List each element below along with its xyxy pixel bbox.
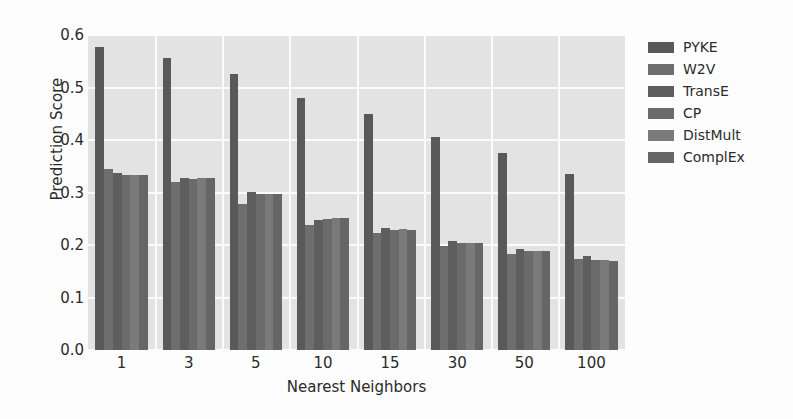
bar[interactable] xyxy=(600,260,609,350)
bar[interactable] xyxy=(139,175,148,350)
bar[interactable] xyxy=(104,169,113,350)
legend-swatch-icon xyxy=(648,130,674,141)
grid-line-vertical xyxy=(424,35,426,350)
legend-swatch-icon xyxy=(648,42,674,53)
y-tick-label: 0.0 xyxy=(42,341,84,359)
bar[interactable] xyxy=(273,194,282,350)
bar[interactable] xyxy=(591,260,600,350)
bar[interactable] xyxy=(180,178,189,350)
bar[interactable] xyxy=(256,194,265,350)
bar[interactable] xyxy=(498,153,507,350)
bar[interactable] xyxy=(265,194,274,350)
bar[interactable] xyxy=(189,179,198,350)
legend-label: CP xyxy=(683,105,701,121)
legend-swatch-icon xyxy=(648,152,674,163)
bar[interactable] xyxy=(507,254,516,350)
x-tick-label: 100 xyxy=(577,354,606,372)
bar-group xyxy=(163,35,215,350)
bar[interactable] xyxy=(609,261,618,350)
x-axis-title: Nearest Neighbors xyxy=(88,378,625,396)
grid-line-vertical xyxy=(558,35,560,350)
bar[interactable] xyxy=(163,58,172,350)
bar-group xyxy=(364,35,416,350)
bar[interactable] xyxy=(323,219,332,350)
bar[interactable] xyxy=(130,175,139,350)
bar-group xyxy=(498,35,550,350)
plot-area xyxy=(88,35,625,350)
bar[interactable] xyxy=(466,243,475,350)
bar[interactable] xyxy=(583,256,592,351)
legend-item[interactable]: W2V xyxy=(648,58,788,80)
legend-label: ComplEx xyxy=(683,149,745,165)
bar[interactable] xyxy=(516,249,525,350)
bar[interactable] xyxy=(390,230,399,350)
bar[interactable] xyxy=(542,251,551,350)
x-tick-label: 15 xyxy=(381,354,400,372)
legend-item[interactable]: ComplEx xyxy=(648,146,788,168)
bar-group xyxy=(565,35,617,350)
bar[interactable] xyxy=(574,259,583,350)
bar[interactable] xyxy=(431,137,440,350)
bar[interactable] xyxy=(533,251,542,350)
x-tick-label: 5 xyxy=(251,354,261,372)
y-tick-label: 0.5 xyxy=(42,79,84,97)
legend-label: DistMult xyxy=(683,127,741,143)
x-tick-label: 30 xyxy=(448,354,467,372)
bar[interactable] xyxy=(475,243,484,350)
legend-item[interactable]: DistMult xyxy=(648,124,788,146)
bar[interactable] xyxy=(314,220,323,350)
x-tick-label: 10 xyxy=(313,354,332,372)
bar[interactable] xyxy=(340,218,349,350)
bar[interactable] xyxy=(448,241,457,350)
bar[interactable] xyxy=(399,229,408,350)
bar[interactable] xyxy=(122,175,131,350)
bar-group xyxy=(230,35,282,350)
bar[interactable] xyxy=(364,114,373,350)
bar[interactable] xyxy=(305,225,314,350)
bar[interactable] xyxy=(247,192,256,350)
bar[interactable] xyxy=(381,228,390,350)
bar[interactable] xyxy=(230,74,239,350)
y-tick-label: 0.1 xyxy=(42,289,84,307)
bar[interactable] xyxy=(332,218,341,350)
bar[interactable] xyxy=(457,243,466,350)
legend-item[interactable]: TransE xyxy=(648,80,788,102)
bar[interactable] xyxy=(407,230,416,350)
y-tick-label: 0.3 xyxy=(42,184,84,202)
y-tick-label: 0.4 xyxy=(42,131,84,149)
bar-group xyxy=(297,35,349,350)
bar[interactable] xyxy=(113,173,122,350)
x-tick-label: 1 xyxy=(117,354,127,372)
grid-line-vertical xyxy=(357,35,359,350)
legend-swatch-icon xyxy=(648,64,674,75)
legend-swatch-icon xyxy=(648,108,674,119)
bar[interactable] xyxy=(95,47,104,350)
legend-item[interactable]: PYKE xyxy=(648,36,788,58)
legend-item[interactable]: CP xyxy=(648,102,788,124)
legend-label: PYKE xyxy=(683,39,718,55)
bar[interactable] xyxy=(297,98,306,350)
bar[interactable] xyxy=(524,251,533,350)
grid-line-vertical xyxy=(222,35,224,350)
chart-legend: PYKEW2VTransECPDistMultComplEx xyxy=(648,36,788,168)
bar[interactable] xyxy=(565,174,574,350)
bar[interactable] xyxy=(197,178,206,350)
legend-label: TransE xyxy=(683,83,729,99)
y-axis-tick-labels: 0.00.10.20.30.40.50.6 xyxy=(42,28,84,350)
grid-line-vertical xyxy=(155,35,157,350)
grid-line-vertical xyxy=(289,35,291,350)
bar[interactable] xyxy=(440,246,449,350)
bar[interactable] xyxy=(171,182,180,350)
y-tick-label: 0.6 xyxy=(42,26,84,44)
legend-swatch-icon xyxy=(648,86,674,97)
x-tick-label: 50 xyxy=(515,354,534,372)
bar-group xyxy=(95,35,147,350)
bar[interactable] xyxy=(238,204,247,350)
bar-group xyxy=(431,35,483,350)
bar[interactable] xyxy=(206,178,215,350)
bar-chart-figure: Prediction Score 0.00.10.20.30.40.50.6 1… xyxy=(0,0,793,419)
y-tick-label: 0.2 xyxy=(42,236,84,254)
grid-line-vertical xyxy=(491,35,493,350)
legend-label: W2V xyxy=(683,61,715,77)
bar[interactable] xyxy=(373,233,382,350)
